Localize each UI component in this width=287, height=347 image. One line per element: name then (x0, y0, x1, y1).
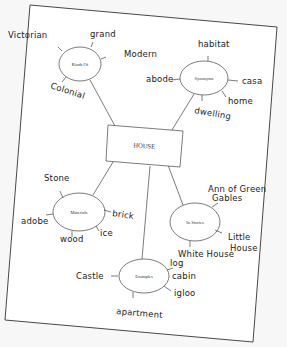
branch-label: cabin (172, 271, 196, 281)
branch-label: Victorian (8, 30, 47, 40)
branch-label: Modern (124, 49, 157, 59)
branch-label: adobe (21, 216, 48, 226)
branch-label: Castle (76, 271, 104, 281)
node-label: Examples (135, 274, 153, 279)
branch-label: grand (90, 29, 116, 39)
branch-label: ice (100, 228, 113, 238)
branch-label: home (228, 96, 253, 106)
branch-label: Stone (44, 173, 70, 183)
center-node-house: HOUSE (106, 125, 183, 167)
house-concept-map: HOUSE Kinds OfVictoriangrandModernColoni… (0, 0, 287, 347)
branch-label: Gables (212, 193, 243, 203)
branch-label: igloo (174, 288, 196, 298)
branch-label: log (170, 258, 184, 268)
branch-label: White House (178, 249, 234, 259)
concept-map-canvas: HOUSE Kinds OfVictoriangrandModernColoni… (0, 0, 287, 347)
node-label: Synonyms (194, 76, 213, 81)
branch-label: casa (242, 76, 262, 86)
branch-label: Little (228, 232, 251, 242)
branch-label: habitat (198, 39, 230, 49)
node-label: Kinds Of (72, 62, 89, 67)
branch-label: wood (60, 234, 84, 244)
node-label: In Stories (186, 220, 204, 225)
node-label: Materials (71, 210, 88, 215)
branch-label: abode (146, 74, 173, 84)
